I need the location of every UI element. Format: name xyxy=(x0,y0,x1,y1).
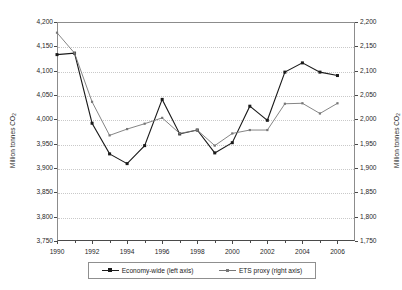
y-axis-tick-mark xyxy=(54,22,57,23)
y-axis-tick-label: 3,850 xyxy=(36,188,53,195)
y-axis-tick-label: 3,800 xyxy=(36,213,53,220)
x-axis-minor-tick-mark xyxy=(320,241,321,243)
x-axis-tick-mark xyxy=(232,241,233,244)
y-axis-tick-label: 3,750 xyxy=(36,237,53,244)
y2-axis-tick-mark xyxy=(355,22,358,23)
left-axis-title: Million tonnes CO2 xyxy=(9,113,17,168)
gridline xyxy=(58,120,354,121)
y-axis-tick-label: 3,950 xyxy=(36,140,53,147)
y2-axis-tick-label: 1,950 xyxy=(360,140,377,147)
y2-axis-tick-mark xyxy=(355,95,358,96)
x-axis-tick-mark xyxy=(337,241,338,244)
x-axis-tick-mark xyxy=(92,241,93,244)
legend-marker-ets-proxy-icon xyxy=(219,267,236,274)
x-axis-tick-label: 2006 xyxy=(317,248,357,255)
y-axis-tick-label: 4,050 xyxy=(36,91,53,98)
legend-item-ets-proxy: ETS proxy (right axis) xyxy=(219,267,302,274)
y2-axis-tick-mark xyxy=(355,119,358,120)
x-axis-tick-label: 1992 xyxy=(72,248,112,255)
y-axis-tick-label: 4,150 xyxy=(36,42,53,49)
y-axis-tick-mark xyxy=(54,71,57,72)
x-axis-minor-tick-mark xyxy=(180,241,181,243)
y-axis-tick-mark xyxy=(54,217,57,218)
x-axis-minor-tick-mark xyxy=(145,241,146,243)
left-axis-title-text: Million tonnes CO xyxy=(9,116,16,168)
y-axis-tick-mark xyxy=(54,192,57,193)
x-axis-tick-label: 1998 xyxy=(177,248,217,255)
x-axis-tick-label: 2002 xyxy=(247,248,287,255)
y2-axis-tick-mark xyxy=(355,217,358,218)
gridline xyxy=(58,96,354,97)
y2-axis-tick-label: 2,150 xyxy=(360,42,377,49)
y2-axis-tick-label: 2,100 xyxy=(360,67,377,74)
x-axis-minor-tick-mark xyxy=(215,241,216,243)
x-axis-tick-mark xyxy=(57,241,58,244)
x-axis-tick-mark xyxy=(302,241,303,244)
right-axis-title-text: Million tonnes CO xyxy=(393,116,400,168)
y-axis-tick-mark xyxy=(54,144,57,145)
x-axis-tick-label: 1994 xyxy=(107,248,147,255)
x-axis-tick-mark xyxy=(162,241,163,244)
y2-axis-tick-mark xyxy=(355,168,358,169)
y-axis-tick-label: 3,900 xyxy=(36,164,53,171)
y-axis-tick-mark xyxy=(54,46,57,47)
x-axis-tick-mark xyxy=(197,241,198,244)
legend-marker-economy-wide-icon xyxy=(102,267,119,274)
legend-item-economy-wide: Economy-wide (left axis) xyxy=(102,267,194,274)
gridline xyxy=(58,145,354,146)
gridline xyxy=(58,193,354,194)
y2-axis-tick-mark xyxy=(355,71,358,72)
chart-figure: Million tonnes CO2 Million tonnes CO2 3,… xyxy=(0,0,402,290)
y-axis-tick-label: 4,200 xyxy=(36,18,53,25)
y2-axis-tick-label: 1,900 xyxy=(360,164,377,171)
plot-area xyxy=(57,22,355,241)
y2-axis-tick-label: 1,850 xyxy=(360,188,377,195)
left-axis-title-subscript: 2 xyxy=(12,113,17,116)
right-axis-title: Million tonnes CO2 xyxy=(393,113,401,168)
y2-axis-tick-label: 1,750 xyxy=(360,237,377,244)
y2-axis-tick-mark xyxy=(355,46,358,47)
y-axis-tick-label: 4,000 xyxy=(36,115,53,122)
y2-axis-tick-label: 2,000 xyxy=(360,115,377,122)
x-axis-tick-label: 1990 xyxy=(37,248,77,255)
gridline xyxy=(58,169,354,170)
x-axis-minor-tick-mark xyxy=(250,241,251,243)
x-axis-tick-label: 2000 xyxy=(212,248,252,255)
chart-legend: Economy-wide (left axis) ETS proxy (righ… xyxy=(88,262,316,279)
gridline xyxy=(58,72,354,73)
x-axis-tick-mark xyxy=(127,241,128,244)
y2-axis-tick-label: 2,200 xyxy=(360,18,377,25)
y-axis-tick-mark xyxy=(54,95,57,96)
x-axis-tick-label: 1996 xyxy=(142,248,182,255)
legend-label-economy-wide: Economy-wide (left axis) xyxy=(122,267,194,274)
x-axis-minor-tick-mark xyxy=(110,241,111,243)
y2-axis-tick-mark xyxy=(355,192,358,193)
x-axis-minor-tick-mark xyxy=(75,241,76,243)
legend-label-ets-proxy: ETS proxy (right axis) xyxy=(239,267,302,274)
right-axis-title-subscript: 2 xyxy=(396,113,401,116)
y2-axis-tick-label: 2,050 xyxy=(360,91,377,98)
y2-axis-tick-mark xyxy=(355,144,358,145)
y2-axis-tick-label: 1,800 xyxy=(360,213,377,220)
y-axis-tick-label: 4,100 xyxy=(36,67,53,74)
gridline xyxy=(58,218,354,219)
gridline xyxy=(58,47,354,48)
x-axis-minor-tick-mark xyxy=(285,241,286,243)
x-axis-tick-mark xyxy=(267,241,268,244)
y-axis-tick-mark xyxy=(54,168,57,169)
y-axis-tick-mark xyxy=(54,119,57,120)
x-axis-tick-label: 2004 xyxy=(282,248,322,255)
y2-axis-tick-mark xyxy=(355,241,358,242)
